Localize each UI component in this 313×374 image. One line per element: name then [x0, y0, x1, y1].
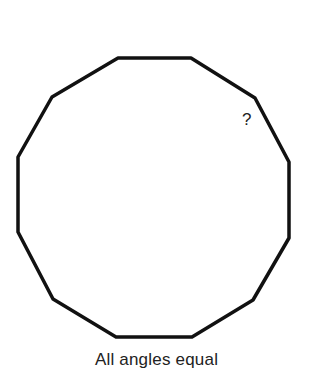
caption: All angles equal: [0, 350, 313, 370]
dodecagon-figure: ?: [0, 0, 313, 374]
unknown-angle-label: ?: [242, 110, 251, 129]
dodecagon: [18, 58, 289, 337]
